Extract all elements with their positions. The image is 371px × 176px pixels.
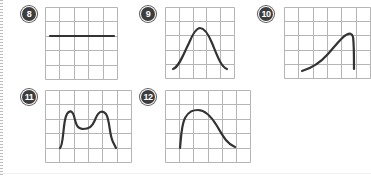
grid-8: [46, 8, 118, 80]
grid-11: [46, 91, 132, 163]
item-number-badge-8: 8: [22, 7, 36, 21]
graph-11: [45, 90, 133, 163]
grid-10: [285, 8, 371, 79]
dotted-margin-border: [0, 0, 3, 176]
item-number-badge-11: 11: [22, 90, 36, 104]
item-number-badge-12: 12: [141, 90, 155, 104]
curve-9: [173, 28, 227, 69]
graph-10: [284, 7, 371, 80]
graph-8: [45, 7, 118, 80]
curve-12: [180, 110, 235, 148]
graph-9: [165, 7, 236, 80]
item-number-badge-9: 9: [141, 7, 155, 21]
graph-12: [165, 90, 252, 163]
bottom-divider: [0, 173, 371, 174]
grid-12: [166, 91, 251, 163]
item-number-badge-10: 10: [259, 7, 273, 21]
